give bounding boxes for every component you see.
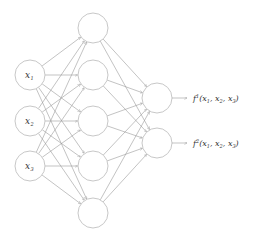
edge-arrow: [42, 37, 81, 66]
edge-arrow: [42, 175, 81, 204]
output-functions: f1(x1, x2, x3)f2(x1, x2, x3): [172, 93, 239, 149]
edge-arrow: [107, 148, 142, 161]
hidden-node-2: [78, 60, 108, 90]
edge-arrow: [103, 154, 146, 201]
edge-arrow: [107, 103, 142, 116]
output-node-2: [142, 128, 172, 158]
hidden-node-3: [78, 106, 108, 136]
edge-arrow: [103, 39, 146, 86]
output-node-1: [142, 83, 172, 113]
edge-arrow: [103, 109, 146, 155]
edge-arrow: [103, 86, 146, 132]
hidden-node-5: [78, 198, 108, 228]
edge-arrow: [107, 80, 142, 93]
hidden-node-1: [78, 13, 108, 43]
neuron-nodes: [15, 13, 172, 228]
edge-arrow: [36, 42, 86, 152]
neural-network-diagram: x1x2x3 f1(x1, x2, x3)f2(x1, x2, x3): [0, 0, 256, 242]
output-function-label-2: f2(x1, x2, x3): [192, 138, 239, 149]
output-function-label-1: f1(x1, x2, x3): [192, 93, 239, 104]
hidden-node-4: [78, 151, 108, 181]
